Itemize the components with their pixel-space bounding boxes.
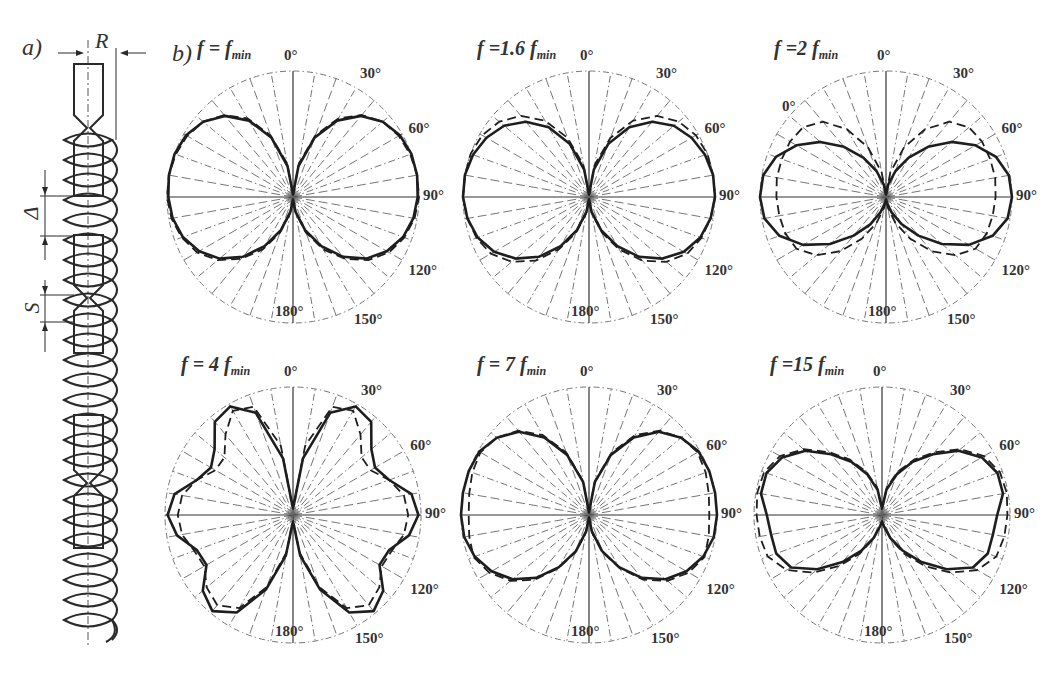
angle-label-180-deg: 180° (571, 623, 600, 640)
angle-label-60-deg: 60° (705, 120, 726, 137)
plot-title-subscript: min (537, 48, 556, 62)
plot-title: f = 7 fmin (477, 353, 546, 379)
plot-title-main: f =15 f (770, 353, 825, 375)
angle-label-60-deg: 60° (409, 120, 430, 137)
angle-label-90-deg: 90° (721, 505, 742, 522)
angle-label-120-deg: 120° (1002, 262, 1031, 279)
plot-title-subscript: min (232, 48, 251, 62)
polar-chart (165, 387, 421, 643)
plot-title: f = fmin (197, 37, 251, 63)
angle-label-60-deg: 60° (410, 437, 431, 454)
angle-label-30-deg: 30° (950, 382, 971, 399)
angle-label-150-deg: 150° (355, 630, 384, 647)
panel-a-label: a) (22, 34, 42, 61)
angle-label-150-deg: 150° (944, 630, 973, 647)
angle-label-0-deg: 0° (580, 363, 594, 380)
angle-label-60-deg: 60° (706, 437, 727, 454)
angle-label-150-deg: 150° (650, 311, 679, 328)
angle-label-150-deg: 150° (947, 311, 976, 328)
pitch-label: S (19, 303, 45, 314)
angle-label-180-deg: 180° (864, 623, 893, 640)
angle-label-180-deg: 180° (275, 303, 304, 320)
angle-label-60-deg: 60° (1002, 120, 1023, 137)
polar-chart (167, 71, 419, 323)
angle-label-30-deg: 30° (656, 65, 677, 82)
panel-b-label: b) (172, 40, 192, 67)
angle-label-120-deg: 120° (705, 262, 734, 279)
radius-label: R (95, 28, 108, 54)
plot-title-main: f = f (197, 37, 232, 59)
plot-title-subscript: min (231, 364, 250, 378)
angle-label-120-deg: 120° (410, 581, 439, 598)
plot-title: f =2 fmin (774, 37, 838, 63)
angle-label-0-deg: 0° (284, 47, 298, 64)
figure: a) b) R Δ S 0°30°60°90°120°150°180°f = f… (0, 0, 1060, 680)
polar-chart (461, 387, 717, 643)
plot-title-subscript: min (819, 48, 838, 62)
angle-label-180-deg: 180° (571, 303, 600, 320)
plot-title: f =1.6 fmin (477, 37, 556, 63)
polar-chart (463, 71, 715, 323)
angle-label-150-deg: 150° (651, 630, 680, 647)
angle-label-60-deg: 60° (999, 437, 1020, 454)
angle-label-90-deg: 90° (425, 505, 446, 522)
angle-label-extra: 0° (782, 98, 796, 115)
plot-title-subscript: min (527, 364, 546, 378)
polar-plots (0, 0, 1060, 680)
angle-label-0-deg: 0° (284, 363, 298, 380)
angle-label-120-deg: 120° (999, 581, 1028, 598)
angle-label-120-deg: 120° (409, 262, 438, 279)
angle-label-90-deg: 90° (719, 187, 740, 204)
angle-label-90-deg: 90° (1016, 187, 1037, 204)
angle-label-90-deg: 90° (1014, 505, 1035, 522)
angle-label-30-deg: 30° (657, 382, 678, 399)
angle-label-180-deg: 180° (275, 623, 304, 640)
plot-title: f =15 fmin (770, 353, 844, 379)
angle-label-30-deg: 30° (361, 382, 382, 399)
plot-title: f = 4 fmin (181, 353, 250, 379)
angle-label-30-deg: 30° (360, 65, 381, 82)
plot-title-main: f =1.6 f (477, 37, 537, 59)
plot-title-main: f =2 f (774, 37, 819, 59)
angle-label-120-deg: 120° (706, 581, 735, 598)
angle-label-90-deg: 90° (423, 187, 444, 204)
polar-chart (760, 71, 1012, 323)
angle-label-180-deg: 180° (868, 303, 897, 320)
angle-label-30-deg: 30° (953, 65, 974, 82)
plot-title-main: f = 7 f (477, 353, 527, 375)
gap-label: Δ (18, 207, 44, 220)
plot-title-subscript: min (825, 364, 844, 378)
plot-title-main: f = 4 f (181, 353, 231, 375)
polar-chart (754, 387, 1010, 643)
angle-label-0-deg: 0° (580, 47, 594, 64)
angle-label-150-deg: 150° (354, 311, 383, 328)
angle-label-0-deg: 0° (873, 363, 887, 380)
angle-label-0-deg: 0° (877, 47, 891, 64)
